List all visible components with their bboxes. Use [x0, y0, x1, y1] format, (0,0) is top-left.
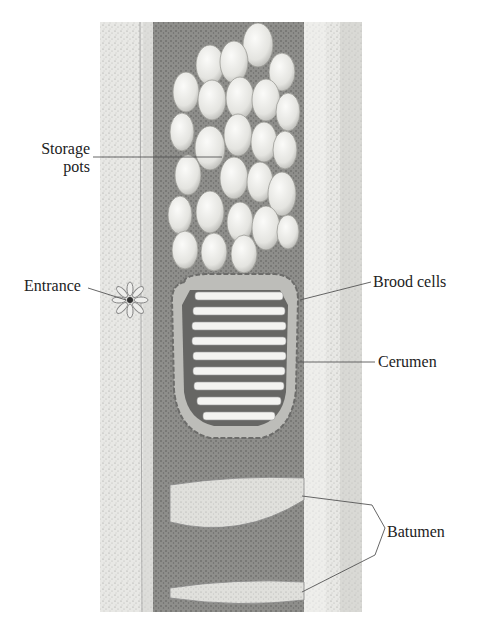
label-cerumen: Cerumen [378, 353, 437, 371]
label-batumen: Batumen [387, 523, 445, 541]
entrance-rosette [112, 282, 148, 318]
right-bark [304, 22, 362, 612]
label-brood-cells: Brood cells [373, 273, 446, 291]
nest-illustration: Storage pots Entrance Brood cells Cerume… [0, 0, 488, 618]
label-entrance: Entrance [24, 277, 81, 295]
label-storage-pots-line2: pots [10, 158, 90, 176]
label-storage-pots-line1: Storage [10, 140, 90, 158]
brood-cells [192, 292, 286, 420]
left-bark [100, 22, 153, 612]
label-storage-pots: Storage pots [10, 140, 90, 176]
